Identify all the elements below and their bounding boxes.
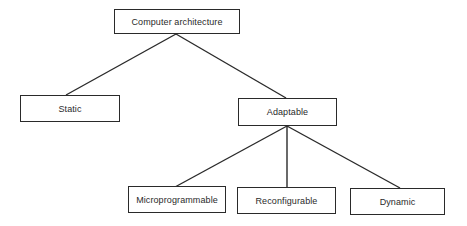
node-label: Adaptable	[267, 107, 308, 117]
edge-root-adaptable	[176, 34, 286, 98]
node-label: Dynamic	[380, 197, 416, 207]
node-label: Static	[58, 104, 81, 114]
node-label: Computer architecture	[131, 17, 222, 27]
tree-diagram: Computer architecture Static Adaptable M…	[0, 0, 467, 226]
edge-adaptable-microprogrammable	[175, 126, 287, 187]
node-label: Reconfigurable	[256, 196, 318, 206]
node-static: Static	[20, 95, 120, 122]
node-label: Microprogrammable	[136, 195, 218, 205]
node-computer-architecture: Computer architecture	[114, 9, 240, 34]
edge-adaptable-dynamic	[287, 126, 400, 188]
node-dynamic: Dynamic	[350, 188, 445, 215]
edge-root-static	[66, 34, 176, 95]
node-adaptable: Adaptable	[238, 98, 337, 126]
node-reconfigurable: Reconfigurable	[237, 187, 336, 214]
node-microprogrammable: Microprogrammable	[128, 186, 226, 213]
